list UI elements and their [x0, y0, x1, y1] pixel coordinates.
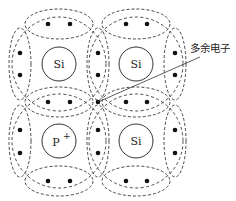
atom-si-bottom-right: Si — [119, 124, 153, 158]
atom-si-top-right: Si — [119, 47, 153, 81]
svg-text:+: + — [63, 131, 71, 141]
atom-si-top-left: Si — [42, 47, 76, 81]
svg-text:Si: Si — [53, 58, 65, 71]
svg-text:P: P — [52, 136, 60, 149]
atom-p-bottom-left: P + — [42, 124, 76, 158]
lattice-diagram: Si Si P + Si 多余电子 — [0, 0, 236, 201]
svg-text:Si: Si — [130, 58, 142, 71]
svg-text:Si: Si — [130, 135, 142, 148]
extra-electron-label: 多余电子 — [190, 42, 230, 54]
